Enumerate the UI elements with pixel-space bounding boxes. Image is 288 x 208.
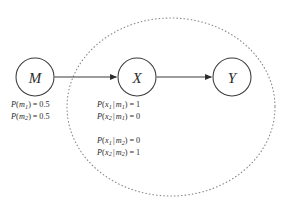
prob-given-var: m (116, 136, 122, 145)
cpt-conditional-line: P(x2|m2) = 1 (97, 147, 140, 159)
equals-sign: = (129, 100, 134, 109)
cpt-conditional-given-m1: P(x1|m1) = 1 P(x2|m1) = 0 (97, 99, 140, 122)
prob-given-sub: 1 (122, 114, 125, 121)
cpt-prior-m: P(m1) = 0.5 P(m2) = 0.5 (11, 99, 50, 122)
cpt-prior-line: P(m1) = 0.5 (11, 99, 50, 111)
cpt-conditional-line: P(x1|m1) = 1 (97, 99, 140, 111)
prob-value: 0.5 (39, 112, 50, 121)
prob-value: 1 (136, 100, 140, 109)
close-paren: ) (125, 148, 128, 157)
causal-diagram-figure: M X Y P(m1) = 0.5 P(m2) = 0.5 P(x1|m1) =… (0, 0, 288, 208)
equals-sign: = (129, 148, 134, 157)
close-paren: ) (125, 100, 128, 109)
prob-given-var: m (116, 112, 122, 121)
prob-value: 0.5 (39, 100, 50, 109)
prob-var-sub: 1 (109, 103, 112, 110)
equals-sign: = (33, 112, 38, 121)
cpt-conditional-line: P(x1|m2) = 0 (97, 135, 140, 147)
close-paren: ) (125, 112, 128, 121)
prob-var-sub: 2 (25, 114, 28, 121)
close-paren: ) (28, 112, 31, 121)
equals-sign: = (33, 100, 38, 109)
prob-value: 0 (136, 112, 140, 121)
prob-var-sub: 2 (109, 150, 112, 157)
prob-given-sub: 2 (122, 150, 125, 157)
equals-sign: = (129, 112, 134, 121)
cpt-conditional-given-m2: P(x1|m2) = 0 P(x2|m2) = 1 (97, 135, 140, 158)
node-m-label: M (28, 70, 43, 86)
close-paren: ) (125, 136, 128, 145)
prob-given-sub: 1 (122, 103, 125, 110)
prob-value: 1 (136, 148, 140, 157)
prob-var-sub: 2 (109, 114, 112, 121)
prob-given-var: m (116, 100, 122, 109)
prob-var-sub: 1 (109, 139, 112, 146)
equals-sign: = (129, 136, 134, 145)
close-paren: ) (28, 100, 31, 109)
cpt-conditional-line: P(x2|m1) = 0 (97, 111, 140, 123)
prob-var-sub: 1 (25, 103, 28, 110)
prob-given-var: m (116, 148, 122, 157)
prob-given-sub: 2 (122, 139, 125, 146)
cpt-prior-line: P(m2) = 0.5 (11, 111, 50, 123)
node-x-label: X (131, 70, 142, 86)
prob-value: 0 (136, 136, 140, 145)
